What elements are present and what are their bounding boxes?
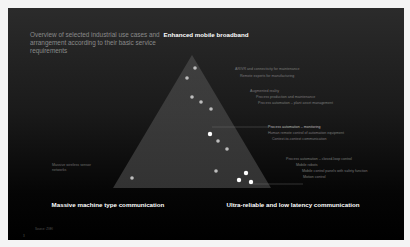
use-case-dot [225, 147, 229, 151]
use-case-label: Process automation – plant asset managem… [258, 101, 333, 105]
use-case-label: Process automation – closed-loop control [286, 157, 352, 161]
use-case-label: Human remote control of automation equip… [268, 131, 344, 135]
use-case-dot [214, 169, 218, 173]
use-case-dot [244, 171, 248, 175]
triangle-diagram [0, 0, 410, 247]
use-case-dot [199, 100, 203, 104]
use-case-dot [190, 95, 194, 99]
use-case-label: Mobile control panels with safety functi… [302, 169, 368, 173]
use-case-dot [185, 76, 189, 80]
use-case-dot [208, 132, 212, 136]
use-case-label: Process automation – monitoring [268, 125, 321, 129]
use-case-dot [130, 176, 134, 180]
use-case-label: Motion control [303, 175, 326, 179]
use-case-dot [249, 180, 253, 184]
use-case-label: Context-to-context communication [272, 137, 327, 141]
use-case-label: Augmented reality [250, 89, 279, 93]
use-case-label: Mobile robots [296, 163, 318, 167]
use-case-label: Process production and maintenance [256, 95, 315, 99]
use-case-label: AR/VR and connectivity for maintenance [235, 67, 300, 71]
use-case-label: Remote experts for manufacturing [240, 74, 294, 78]
use-case-dot [209, 107, 213, 111]
use-case-dot [237, 178, 241, 182]
use-case-dot [193, 66, 197, 70]
use-case-dot [216, 139, 220, 143]
